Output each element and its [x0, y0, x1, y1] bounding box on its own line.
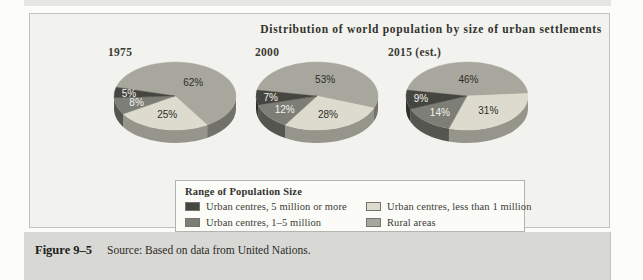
legend-label: Urban centres, less than 1 million — [387, 201, 532, 212]
legend-item-rural-areas: Rural areas — [366, 215, 532, 230]
caption-band: Figure 9–5Source: Based on data from Uni… — [24, 232, 611, 280]
legend: Range of Population Size Urban centres, … — [175, 180, 525, 232]
legend-item-urban-5m-plus: Urban centres, 5 million or more — [185, 199, 366, 214]
page: Distribution of world population by size… — [0, 0, 643, 280]
legend-title: Range of Population Size — [185, 186, 524, 197]
legend-swatch-urban-under-1m — [366, 202, 381, 211]
figure-source: Source: Based on data from United Nation… — [107, 244, 310, 256]
legend-swatch-urban-5m-plus — [185, 202, 200, 211]
pie-year-label-2000: 2000 — [255, 46, 279, 58]
legend-item-urban-under-1m: Urban centres, less than 1 million — [366, 199, 532, 214]
legend-grid: Urban centres, 5 million or more Urban c… — [185, 199, 524, 230]
top-edge-strip — [24, 0, 611, 6]
legend-swatch-urban-1-5m — [185, 218, 200, 227]
figure-number: Figure 9–5 — [35, 243, 92, 257]
chart-title: Distribution of world population by size… — [210, 23, 602, 35]
legend-label: Rural areas — [387, 217, 436, 228]
pie-year-label-2015: 2015 (est.) — [388, 46, 441, 58]
legend-label: Urban centres, 1–5 million — [206, 217, 321, 228]
legend-label: Urban centres, 5 million or more — [206, 201, 347, 212]
pie-year-label-1975: 1975 — [108, 46, 132, 58]
legend-item-urban-1-5m: Urban centres, 1–5 million — [185, 215, 366, 230]
legend-swatch-rural-areas — [366, 218, 381, 227]
